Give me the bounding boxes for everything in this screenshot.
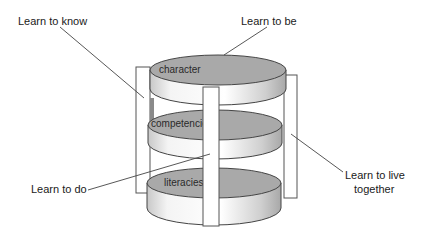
layer-label-literacies: literacies xyxy=(164,177,203,188)
leader-line-be xyxy=(224,27,267,55)
label-learn-to-live: Learn to live xyxy=(345,169,405,181)
layer-label-character: character xyxy=(159,64,201,75)
label-learn-to-be: Learn to be xyxy=(241,15,297,27)
label-learn-to-know: Learn to know xyxy=(18,15,87,27)
label-learn-to-do: Learn to do xyxy=(31,183,87,195)
pillar-learn-to-do xyxy=(203,87,219,226)
label-together: together xyxy=(354,183,395,195)
leader-line-live-together xyxy=(291,134,343,172)
learning-pillars-diagram: literacies competencies character Learn … xyxy=(0,0,425,236)
leader-line-know xyxy=(60,27,144,98)
